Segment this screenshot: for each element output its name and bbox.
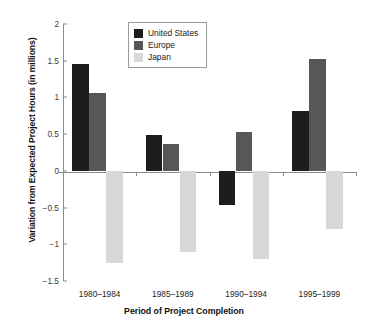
- y-axis-tick-mark: [63, 24, 67, 25]
- bar-japan-1985–1989: [180, 171, 197, 252]
- bar-japan-1995–1999: [326, 171, 343, 229]
- y-axis-tick-label: −1.5: [43, 276, 59, 286]
- y-axis-tick-mark: [63, 170, 67, 171]
- legend-item-japan: Japan: [134, 51, 198, 63]
- x-axis-tick-mark: [356, 172, 357, 176]
- x-axis-tick-mark: [283, 172, 284, 176]
- y-axis-tick-label: −1: [50, 239, 59, 249]
- legend-label-europe: Europe: [148, 40, 175, 50]
- bar-japan-1990–1994: [253, 171, 270, 259]
- y-axis-tick-label: 0.5: [47, 129, 59, 139]
- x-axis-category-label: 1995–1999: [299, 289, 341, 299]
- bar-europe-1990–1994: [236, 132, 253, 171]
- y-axis-tick-label: 1: [54, 92, 59, 102]
- y-axis-tick-mark: [63, 281, 67, 282]
- x-axis-category-label: 1980–1984: [79, 289, 121, 299]
- bar-japan-1980–1984: [106, 171, 123, 263]
- y-axis-tick-mark: [63, 97, 67, 98]
- y-axis-line: [63, 24, 64, 281]
- y-axis-tick-label: 0: [54, 166, 59, 176]
- bar-europe-1985–1989: [163, 144, 180, 171]
- legend-swatch-icon-japan: [134, 53, 143, 62]
- legend-item-united-states: United States: [134, 27, 198, 39]
- y-axis-title: Variation from Expected Project Hours (i…: [27, 15, 37, 265]
- plot-area: 21.510.50−0.5−1−1.51980–19841985–1989199…: [63, 24, 356, 281]
- legend: United States Europe Japan: [128, 22, 207, 68]
- y-axis-tick-mark: [63, 207, 67, 208]
- legend-label-united-states: United States: [148, 28, 198, 38]
- bar-chart: Variation from Expected Project Hours (i…: [0, 0, 368, 334]
- y-axis-tick-mark: [63, 60, 67, 61]
- legend-item-europe: Europe: [134, 39, 198, 51]
- bar-united-states-1980–1984: [72, 64, 89, 171]
- legend-swatch-icon-europe: [134, 41, 143, 50]
- y-axis-tick-label: −0.5: [43, 203, 59, 213]
- bar-united-states-1995–1999: [292, 111, 309, 171]
- legend-label-japan: Japan: [148, 52, 171, 62]
- bar-europe-1980–1984: [89, 93, 106, 171]
- y-axis-tick-mark: [63, 134, 67, 135]
- y-axis-tick-mark: [63, 244, 67, 245]
- y-axis-tick-label: 2: [54, 19, 59, 29]
- bar-united-states-1985–1989: [146, 135, 163, 171]
- zero-baseline: [59, 172, 356, 173]
- bar-united-states-1990–1994: [219, 171, 236, 206]
- x-axis-title: Period of Project Completion: [0, 306, 368, 316]
- x-axis-tick-mark: [136, 172, 137, 176]
- x-axis-category-label: 1985–1989: [152, 289, 194, 299]
- bar-europe-1995–1999: [309, 59, 326, 171]
- legend-swatch-icon-united-states: [134, 29, 143, 38]
- y-axis-tick-label: 1.5: [47, 56, 59, 66]
- x-axis-category-label: 1990–1994: [225, 289, 267, 299]
- x-axis-tick-mark: [210, 172, 211, 176]
